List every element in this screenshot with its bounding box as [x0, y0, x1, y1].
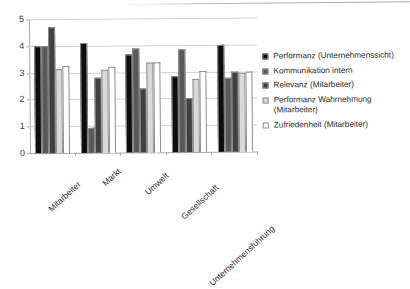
bar-groups [29, 18, 258, 154]
bar-group [75, 19, 122, 153]
bar [80, 43, 88, 153]
legend-swatch-icon [262, 68, 268, 74]
bar-group [29, 19, 76, 153]
bar-group [211, 18, 258, 152]
bar [199, 71, 207, 152]
bar-group [166, 18, 213, 152]
y-tick-label: 3 [19, 69, 24, 78]
legend-item[interactable]: Zufriedenheit (Mitarbeiter) [263, 119, 408, 131]
bar [63, 66, 71, 153]
legend-label: Kommunikation intern [273, 65, 352, 76]
bar [154, 62, 162, 152]
legend-item[interactable]: Performanz Wahrnehmung (Mitarbeiter) [263, 94, 408, 116]
y-tick-label: 2 [20, 95, 25, 104]
category-label: Mitarbeiter [46, 180, 82, 214]
legend-swatch-icon [263, 97, 269, 103]
legend-label: Zufriedenheit (Mitarbeiter) [274, 119, 368, 130]
chart-legend: Performanz (Unternehmenssicht)Kommunikat… [262, 50, 408, 134]
legend-swatch-icon [262, 82, 268, 88]
legend-item[interactable]: Performanz (Unternehmenssicht) [262, 50, 407, 62]
category-label: Markt [101, 167, 123, 188]
y-tick-label: 5 [19, 15, 24, 24]
category-label: Unternehmensführung [208, 224, 277, 288]
category-label: Gesellschaft [180, 183, 221, 221]
legend-swatch-icon [262, 53, 268, 59]
y-tick-label: 1 [20, 122, 25, 131]
bar [108, 67, 116, 153]
bar [245, 71, 253, 151]
category-label: Umwelt [143, 171, 170, 197]
legend-item[interactable]: Relevanz (Mitarbeiter) [262, 79, 407, 91]
legend-item[interactable]: Kommunikation intern [262, 65, 407, 77]
plot-area: 012345 [29, 18, 258, 154]
y-tick-label: 0 [20, 149, 25, 158]
y-tick-label: 4 [19, 42, 24, 51]
legend-label: Relevanz (Mitarbeiter) [273, 80, 354, 91]
legend-label: Performanz Wahrnehmung (Mitarbeiter) [274, 94, 408, 116]
category-axis-labels: MitarbeiterMarktUmweltGesellschaftUntern… [30, 152, 259, 246]
bar-chart-figure: 012345 MitarbeiterMarktUmweltGesellschaf… [0, 0, 409, 249]
legend-swatch-icon [263, 122, 269, 128]
bar-group [120, 18, 167, 152]
legend-label: Performanz (Unternehmenssicht) [273, 51, 394, 62]
